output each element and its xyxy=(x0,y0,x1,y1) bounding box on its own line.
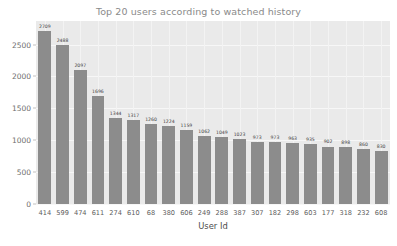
bar-group[interactable]: 935 xyxy=(302,21,320,204)
bar-group[interactable]: 2709 xyxy=(36,21,54,204)
bar-value-label: 2097 xyxy=(74,64,86,69)
y-axis-tick-label: 1000 xyxy=(12,136,31,145)
x-axis-tick-label: 182 xyxy=(269,209,282,217)
plot-area: 2709248820971696134413171260122411591062… xyxy=(36,21,390,204)
bar-group[interactable]: 963 xyxy=(284,21,302,204)
bar[interactable] xyxy=(286,143,299,204)
bar-chart: Top 20 users according to watched histor… xyxy=(0,0,397,246)
bar-value-label: 2709 xyxy=(39,25,51,30)
bar[interactable] xyxy=(215,137,228,204)
bar[interactable] xyxy=(92,96,105,204)
bar-group[interactable]: 1023 xyxy=(231,21,249,204)
bar-group[interactable]: 898 xyxy=(337,21,355,204)
x-axis-tick-label: 68 xyxy=(147,209,155,217)
bar-group[interactable]: 830 xyxy=(372,21,390,204)
y-axis-tick-label: 2000 xyxy=(12,72,31,81)
x-axis-tick-label: 318 xyxy=(339,209,352,217)
bar-value-label: 1260 xyxy=(145,118,157,123)
x-axis-tick-label: 599 xyxy=(56,209,69,217)
bar[interactable] xyxy=(109,118,122,204)
bar-group[interactable]: 1224 xyxy=(160,21,178,204)
bar-value-label: 1062 xyxy=(198,130,210,135)
bar[interactable] xyxy=(127,120,140,204)
x-axis-tick-label: 603 xyxy=(304,209,317,217)
bar-value-label: 935 xyxy=(306,138,315,143)
bar-group[interactable]: 2097 xyxy=(71,21,89,204)
chart-title: Top 20 users according to watched histor… xyxy=(0,6,397,17)
bar[interactable] xyxy=(74,70,87,204)
bar-value-label: 902 xyxy=(324,140,333,145)
bar[interactable] xyxy=(339,147,352,204)
bar[interactable] xyxy=(304,144,317,204)
bar[interactable] xyxy=(180,130,193,204)
x-axis-tick-label: 606 xyxy=(180,209,193,217)
bar-value-label: 830 xyxy=(377,145,386,150)
bar[interactable] xyxy=(233,139,246,204)
bar-value-label: 860 xyxy=(359,143,368,148)
bar-value-label: 1696 xyxy=(92,90,104,95)
y-axis-tick-label: 0 xyxy=(26,200,31,209)
bar-group[interactable]: 973 xyxy=(248,21,266,204)
bar-group[interactable]: 1696 xyxy=(89,21,107,204)
x-axis-tick-label: 177 xyxy=(322,209,335,217)
y-axis: 05001000150020002500 xyxy=(0,21,36,204)
bar[interactable] xyxy=(38,31,51,204)
bar-group[interactable]: 860 xyxy=(355,21,373,204)
x-axis-tick-label: 611 xyxy=(92,209,105,217)
bar-group[interactable]: 973 xyxy=(266,21,284,204)
bar-value-label: 1159 xyxy=(181,124,193,129)
bar-group[interactable]: 1317 xyxy=(125,21,143,204)
bar-value-label: 1317 xyxy=(127,114,139,119)
bar[interactable] xyxy=(198,136,211,204)
x-axis-tick-label: 288 xyxy=(216,209,229,217)
x-axis-tick-label: 298 xyxy=(286,209,299,217)
x-axis-tick-label: 608 xyxy=(375,209,388,217)
bar-group[interactable]: 1159 xyxy=(178,21,196,204)
x-axis-tick-label: 232 xyxy=(357,209,370,217)
bar[interactable] xyxy=(322,147,335,205)
bar-group[interactable]: 1049 xyxy=(213,21,231,204)
bar-value-label: 2488 xyxy=(57,39,69,44)
bar[interactable] xyxy=(56,45,69,204)
bar[interactable] xyxy=(162,126,175,204)
x-axis-tick-label: 307 xyxy=(251,209,264,217)
bar[interactable] xyxy=(269,142,282,204)
bar-group[interactable]: 1062 xyxy=(195,21,213,204)
bar-value-label: 973 xyxy=(271,136,280,141)
bar-group[interactable]: 1344 xyxy=(107,21,125,204)
y-axis-tick-label: 1500 xyxy=(12,104,31,113)
x-axis-tick-label: 249 xyxy=(198,209,211,217)
bar[interactable] xyxy=(251,142,264,204)
bar-value-label: 1023 xyxy=(234,133,246,138)
x-axis-tick-label: 274 xyxy=(109,209,122,217)
bars-layer: 2709248820971696134413171260122411591062… xyxy=(36,21,390,204)
bar-value-label: 1049 xyxy=(216,131,228,136)
x-axis-label: User Id xyxy=(36,221,390,231)
bar[interactable] xyxy=(375,151,388,204)
y-axis-tick-label: 500 xyxy=(17,168,31,177)
bar-value-label: 1344 xyxy=(110,112,122,117)
bar-group[interactable]: 2488 xyxy=(54,21,72,204)
bar[interactable] xyxy=(357,149,370,204)
x-axis: 4145994746112746106838060624928838730718… xyxy=(36,204,390,222)
x-axis-tick-label: 414 xyxy=(39,209,52,217)
x-axis-tick-label: 387 xyxy=(233,209,246,217)
x-axis-tick-label: 380 xyxy=(162,209,175,217)
bar-value-label: 973 xyxy=(253,136,262,141)
bar-value-label: 963 xyxy=(288,137,297,142)
x-axis-tick-label: 474 xyxy=(74,209,87,217)
y-axis-tick-label: 2500 xyxy=(12,40,31,49)
x-axis-tick-label: 610 xyxy=(127,209,140,217)
bar-group[interactable]: 902 xyxy=(319,21,337,204)
bar-group[interactable]: 1260 xyxy=(142,21,160,204)
bar-value-label: 898 xyxy=(341,141,350,146)
bar[interactable] xyxy=(145,124,158,204)
bar-value-label: 1224 xyxy=(163,120,175,125)
